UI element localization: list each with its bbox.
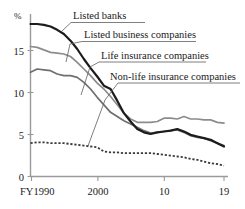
y-tick-label-0: 0: [19, 172, 24, 183]
series-line-listed-banks: [31, 24, 225, 147]
series-group: [31, 24, 225, 166]
leader-listed-banks: [62, 23, 71, 32]
annotation-label-life-insurance-companies: Life insurance companies: [101, 50, 209, 61]
line-chart: % 15 10 5 0 FY1990 2000 10 19 Listed b: [0, 0, 245, 209]
x-axis: [31, 177, 229, 182]
y-axis: [28, 14, 34, 177]
y-tick-label-15: 15: [14, 46, 25, 57]
y-tick-label-10: 10: [14, 88, 25, 99]
chart-canvas: % 15 10 5 0 FY1990 2000 10 19 Listed b: [0, 0, 245, 209]
y-tick-label-5: 5: [19, 130, 24, 141]
leader-life-insurance: [81, 62, 99, 95]
annotation-label-listed-business-companies: Listed business companies: [84, 29, 196, 40]
annotation-leaders: [62, 23, 240, 147]
x-tick-label-1990: FY1990: [20, 186, 54, 197]
annotation-label-non-life-insurance-companies: Non-life insurance companies: [110, 71, 236, 82]
x-tick-label-2010: 10: [159, 186, 170, 197]
x-tick-label-2000: 2000: [87, 186, 108, 197]
series-line-non-life-insurance-companies: [31, 142, 225, 165]
y-axis-unit-label: %: [14, 11, 22, 21]
annotation-label-listed-banks: Listed banks: [73, 10, 126, 21]
x-tick-label-2019: 19: [219, 186, 230, 197]
